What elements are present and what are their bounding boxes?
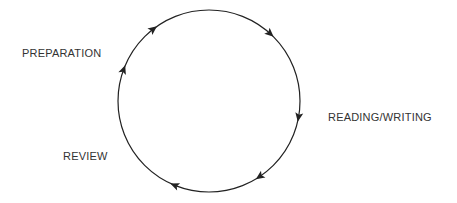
stage-label-reading-writing: READING/WRITING (328, 111, 432, 123)
cycle-diagram (0, 0, 457, 203)
stage-label-review: REVIEW (63, 150, 108, 162)
stage-label-preparation: PREPARATION (22, 47, 101, 59)
arrowhead-icon (118, 64, 129, 75)
cycle-circle (118, 10, 300, 192)
arrowhead-icon (254, 171, 266, 183)
arrowhead-icon (169, 180, 180, 191)
arrowheads (118, 23, 303, 191)
